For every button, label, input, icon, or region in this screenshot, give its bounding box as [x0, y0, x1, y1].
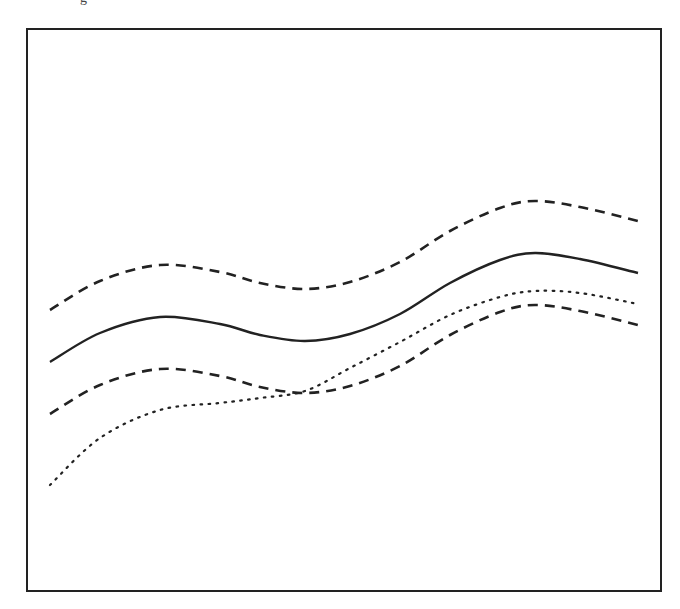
line-chart — [0, 0, 680, 609]
series-mean — [50, 253, 638, 362]
series-upper-band — [50, 201, 638, 310]
chart-area — [0, 0, 680, 609]
series-layer — [50, 201, 638, 485]
plot-frame — [27, 29, 661, 591]
